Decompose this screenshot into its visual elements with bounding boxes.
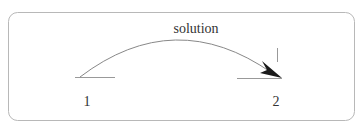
node-1-label: 1 [84, 94, 91, 109]
diagram-canvas: solution 1 2 [0, 0, 362, 126]
node-2-label: 2 [273, 94, 280, 109]
edge-label-solution: solution [173, 21, 218, 36]
arrowhead-icon [260, 61, 282, 78]
solution-arc [80, 40, 272, 77]
